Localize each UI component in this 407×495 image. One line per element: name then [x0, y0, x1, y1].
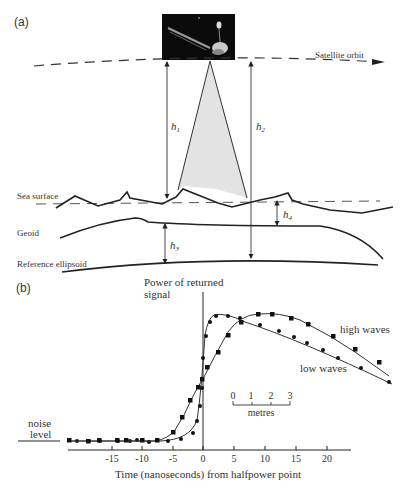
sea-surface-label: Sea surface	[17, 191, 58, 201]
panel-b-label: (b)	[16, 281, 31, 295]
svg-text:10: 10	[260, 453, 270, 464]
svg-text:metres: metres	[248, 407, 275, 418]
h3-label: h3	[170, 239, 180, 253]
panel-a-label: (a)	[14, 15, 29, 29]
high-waves-points	[67, 312, 382, 444]
svg-text:-10: -10	[135, 453, 148, 464]
svg-text:5: 5	[232, 453, 237, 464]
svg-text:3: 3	[288, 390, 293, 401]
x-ticks	[112, 446, 327, 450]
h1-label: h1	[171, 120, 180, 134]
reference-ellipsoid-line	[62, 261, 378, 272]
geoid-label: Geoid	[17, 228, 39, 238]
satellite-image	[162, 14, 235, 60]
high-waves-label: high waves	[340, 323, 390, 335]
altimetry-diagram: (a) Satellite orbit h1 h2 Sea surface Ge…	[0, 0, 407, 495]
geoid-line	[60, 218, 383, 259]
x-axis-label: Time (nanoseconds) from halfpower point	[115, 468, 301, 481]
svg-text:-15: -15	[105, 453, 118, 464]
svg-text:0: 0	[231, 390, 236, 401]
metres-scale-bar: 0 1 2 3 metres	[231, 390, 293, 418]
svg-text:0: 0	[201, 453, 206, 464]
radar-beam	[178, 61, 248, 198]
satellite-orbit-label: Satellite orbit	[315, 50, 364, 60]
low-waves-label: low waves	[300, 362, 347, 374]
y-axis-label-line1: Power of returned	[144, 276, 224, 288]
svg-text:15: 15	[291, 453, 301, 464]
y-axis-label-line2: signal	[144, 288, 170, 300]
svg-text:20: 20	[322, 453, 332, 464]
reference-ellipsoid-label: Reference ellipsoid	[17, 259, 87, 269]
noise-label-line2: level	[30, 428, 51, 440]
svg-text:-5: -5	[169, 453, 177, 464]
x-tick-labels: -15 -10 -5 0 5 10 15 20	[105, 453, 332, 464]
h2-label: h2	[256, 120, 266, 134]
svg-text:2: 2	[269, 390, 274, 401]
h4-label: h4	[283, 208, 293, 222]
orbit-arrow-icon	[372, 59, 385, 65]
svg-text:1: 1	[249, 390, 254, 401]
